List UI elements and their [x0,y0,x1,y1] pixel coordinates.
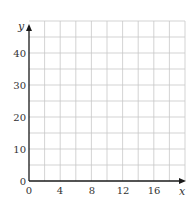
y-axis-arrow-icon [26,24,32,31]
x-tick-label: 12 [117,185,130,196]
y-tick-label: 10 [13,144,26,155]
y-tick-label: 20 [13,112,26,123]
x-tick-label: 16 [148,185,161,196]
y-tick-label: 30 [13,80,26,91]
y-tick-label: 40 [13,48,26,59]
coordinate-grid-chart: y x 0 10 20 30 40 0 4 8 12 16 [0,0,196,206]
x-tick-label: 0 [26,185,32,196]
x-tick-labels: 0 4 8 12 16 [26,185,161,196]
x-axis-label: x [179,185,186,198]
x-tick-label: 4 [57,185,63,196]
y-axis-label: y [17,20,25,33]
x-tick-label: 8 [89,185,95,196]
y-tick-labels: 0 10 20 30 40 [13,48,26,187]
grid-lines [29,21,185,181]
